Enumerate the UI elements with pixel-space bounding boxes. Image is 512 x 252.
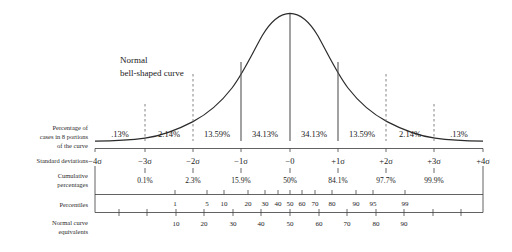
percentage-value: 2.14%	[158, 129, 180, 139]
row-label-cumulative-percentages-line2: percentages	[57, 181, 88, 188]
cumulative-percentage-value: 99.9%	[424, 176, 443, 185]
row-label-standard-deviations: Standard deviations	[37, 157, 89, 164]
percentile-value: 50	[287, 200, 295, 208]
percentage-value: 13.59%	[204, 129, 230, 139]
standard-deviation-value: −1σ	[234, 156, 248, 166]
percentile-value: 30	[262, 200, 270, 208]
nce-value: 40	[258, 220, 266, 228]
percentage-value: .13%	[111, 129, 129, 139]
percentile-value: 40	[275, 200, 283, 208]
percentage-value: 34.13%	[301, 129, 327, 139]
cumulative-percentage-value: 2.3%	[185, 176, 201, 185]
percentile-value: 20	[245, 200, 253, 208]
percentile-value: 60	[299, 200, 307, 208]
row-label-normal-curve-equivalents-line2: equivalents	[58, 228, 88, 235]
percentile-value: 5	[205, 200, 209, 208]
cumulative-percentage-value: 0.1%	[137, 176, 153, 185]
cumulative-percentage-value: 50%	[283, 176, 297, 185]
curve-annotation-line2: bell-shaped curve	[120, 68, 184, 78]
row-label-percentage-of-cases-line2: cases in 8 portions	[40, 133, 89, 140]
percentile-value: 90	[353, 200, 361, 208]
nce-value: 70	[344, 220, 352, 228]
cumulative-percentage-value: 84.1%	[328, 176, 347, 185]
standard-deviation-value: −4σ	[88, 156, 102, 166]
normal-distribution-diagram: Normal bell-shaped curve Percentage of c…	[0, 0, 512, 252]
percentile-value: 80	[329, 200, 337, 208]
percentile-value: 95	[370, 200, 378, 208]
nce-value: 20	[201, 220, 209, 228]
percentile-value: 70	[312, 200, 320, 208]
standard-deviation-value: +3σ	[427, 156, 441, 166]
nce-value: 10	[173, 220, 181, 228]
percentage-value: .13%	[450, 129, 468, 139]
standard-deviation-value: −2σ	[186, 156, 200, 166]
nce-value: 50	[287, 220, 295, 228]
standard-deviation-value: +1σ	[331, 156, 345, 166]
standard-deviation-value: +2σ	[379, 156, 393, 166]
nce-value: 30	[230, 220, 238, 228]
nce-value: 60	[316, 220, 324, 228]
row-label-normal-curve-equivalents-line1: Normal curve	[52, 219, 88, 226]
standard-deviation-value: +4σ	[476, 156, 490, 166]
standard-deviation-value: −0	[285, 156, 294, 166]
cumulative-percentage-value: 15.9%	[231, 176, 250, 185]
percentage-value: 2.14%	[399, 129, 421, 139]
row-label-percentage-of-cases-line1: Percentage of	[52, 124, 88, 131]
percentile-value: 1	[173, 200, 177, 208]
percentage-value: 34.13%	[252, 129, 278, 139]
standard-deviation-value: −3σ	[138, 156, 152, 166]
curve-annotation-line1: Normal	[120, 55, 148, 65]
cumulative-percentage-value: 97.7%	[376, 176, 395, 185]
nce-value: 90	[401, 220, 409, 228]
row-label-percentiles: Percentiles	[59, 201, 88, 208]
percentile-value: 10	[221, 200, 229, 208]
row-label-percentage-of-cases-line3: of the curve	[57, 142, 88, 149]
percentage-value: 13.59%	[349, 129, 375, 139]
row-label-cumulative-percentages-line1: Cumulative	[58, 172, 88, 179]
percentile-value: 99	[402, 200, 410, 208]
nce-value: 80	[373, 220, 381, 228]
